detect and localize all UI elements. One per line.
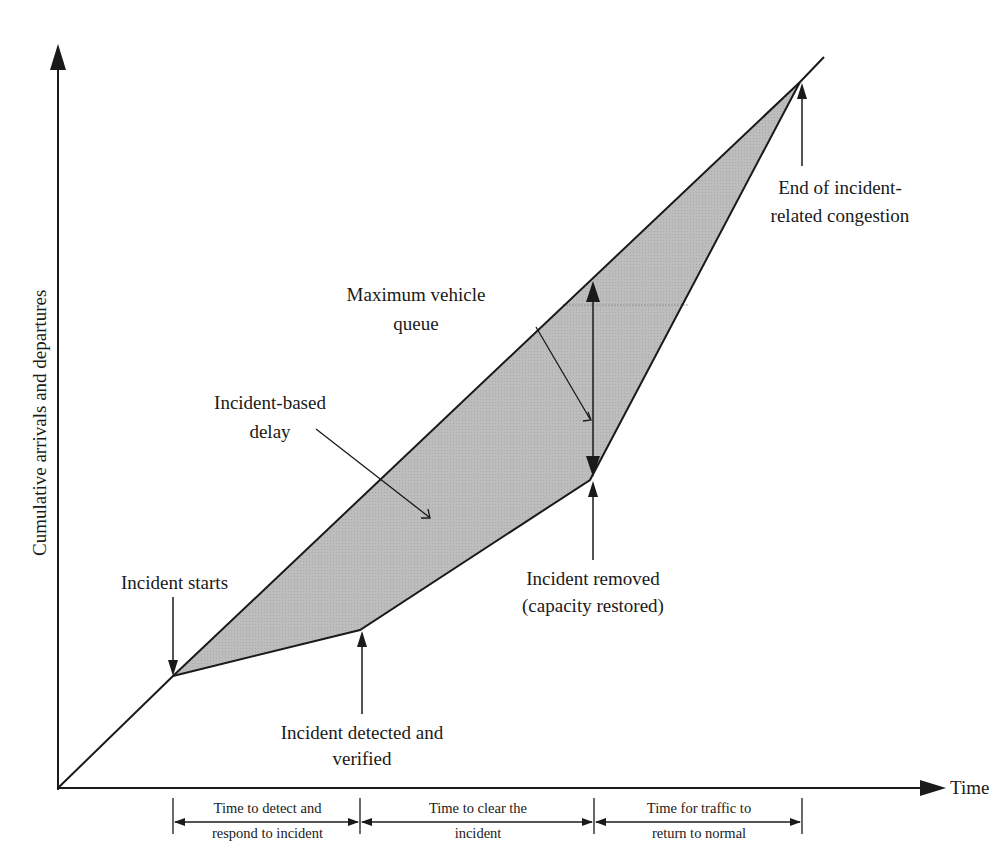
- incident-removed-arrow-icon: [588, 481, 598, 497]
- arrivals-line: [58, 57, 824, 788]
- y-axis-label: Cumulative arrivals and departures: [29, 290, 51, 556]
- incident-starts-label: Incident starts: [92, 572, 257, 594]
- y-axis-arrowhead-icon: [50, 44, 66, 70]
- x-axis-arrowhead-icon: [920, 780, 946, 796]
- incident-detected-arrow-icon: [357, 631, 367, 647]
- x-axis-label: Time: [950, 777, 989, 799]
